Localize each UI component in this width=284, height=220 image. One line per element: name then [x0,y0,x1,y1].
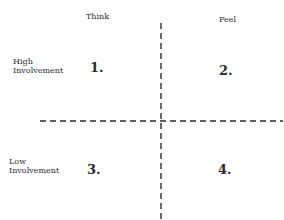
column-label-think: Think [86,12,109,21]
row-label-high-involvement: High Involvement [13,57,63,75]
quadrant-3-label: 3. [87,162,101,177]
column-label-feel: Feel [219,15,236,24]
row-label-low-involvement: Low Involvement [9,157,59,175]
quadrant-2-label: 2. [219,63,233,78]
quadrant-axes [0,0,284,220]
quadrant-4-label: 4. [218,162,232,177]
quadrant-1-label: 1. [90,60,104,75]
